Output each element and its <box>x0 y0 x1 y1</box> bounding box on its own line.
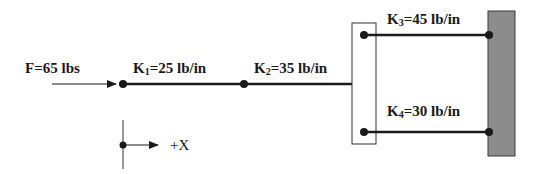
spring-k4-label: K4=30 lb/in <box>387 103 461 120</box>
axis-origin <box>120 142 127 149</box>
node-bar-k3 <box>360 31 368 39</box>
spring-k1-label: K1=25 lb/in <box>133 60 207 77</box>
spring-k2-label: K2=35 lb/in <box>254 60 328 77</box>
node-wall-k3 <box>485 31 493 39</box>
node-force-end <box>119 80 127 88</box>
node-bar-k4 <box>360 128 368 136</box>
node-wall-k4 <box>485 128 493 136</box>
force-label: F=65 lbs <box>25 60 80 76</box>
node-k1-k2 <box>240 80 248 88</box>
rigid-bar <box>352 23 376 144</box>
spring-k3-label: K3=45 lb/in <box>387 11 461 28</box>
axis-x-label: +X <box>170 137 189 153</box>
axis-indicator: +X <box>120 120 190 169</box>
spring-diagram: F=65 lbs K1=25 lb/in K2=35 lb/in K3=45 l… <box>0 0 540 174</box>
